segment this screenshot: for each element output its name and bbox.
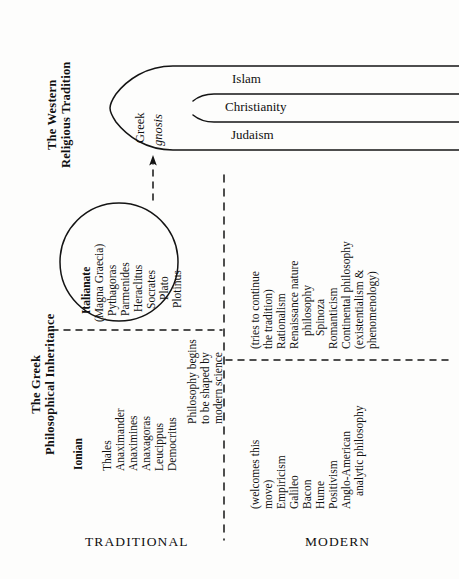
band-label-judaism: Judaism: [231, 127, 274, 143]
continuing-item: phenomenology): [366, 271, 378, 349]
italianate-figure-text: Socrates: [145, 270, 157, 309]
band-label-christianity: Christianity: [225, 99, 286, 115]
page-title-greek-inheritance: The Greek Philosophical Inheritance: [30, 314, 57, 455]
religious-title-line2: Religious Tradition: [60, 62, 74, 168]
ionian-figure: Leucippus: [153, 423, 165, 471]
welcoming-item: Galileo: [288, 475, 300, 509]
ionian-figure: Thales: [101, 440, 113, 471]
ionian-figure-text: Anaxagoras: [140, 416, 152, 471]
continuing-item-text: Continental philosophy: [340, 241, 352, 349]
ionian-figure: Anaximander: [114, 408, 126, 471]
continuing-item-text: phenomenology): [366, 271, 378, 349]
welcoming-item: Bacon: [301, 480, 313, 509]
diagram-canvas: The Western Religious Tradition Greek gn…: [0, 0, 459, 579]
welcoming-parenthetical-line1-text: (welcomes this: [249, 440, 261, 509]
welcoming-item: Empiricism: [275, 455, 287, 509]
italianate-figure: Heraclitus: [132, 265, 144, 312]
italianate-figure-text: Parmenides: [119, 262, 131, 316]
ionian-figure-text: Democritus: [166, 417, 178, 471]
continuing-parenthetical-line1-text: (tries to continue: [249, 271, 261, 349]
religious-title-line1: The Western: [45, 80, 59, 150]
welcoming-parenthetical-line2-text: move): [262, 480, 274, 509]
ionian-figure: Anaxagoras: [140, 416, 152, 471]
italianate-figure: Plotinus: [171, 270, 183, 308]
axis-label-modern-text: MODERN: [305, 534, 370, 549]
continuing-item: philosophy: [301, 285, 313, 336]
group-label-ionian: Ionian: [72, 438, 84, 470]
italianate-figure-text: Plotinus: [171, 270, 183, 308]
continuing-item: Continental philosophy: [340, 241, 352, 349]
italianate-figure-text: Pythagoras: [106, 265, 118, 316]
ionian-figure: Democritus: [166, 417, 178, 471]
ionian-figure-text: Anaximander: [114, 408, 126, 471]
stream-source-greek-label: Greek: [133, 112, 147, 143]
band-label-islam-text: Islam: [232, 71, 261, 86]
continuing-item: Spinoza: [314, 299, 326, 336]
ionian-figure-text: Thales: [101, 440, 113, 471]
continuing-item-text: Romanticism: [327, 288, 339, 349]
band-divider-christianity-judaism: [193, 115, 459, 122]
gnosis-arrow-head: [149, 155, 157, 166]
axis-label-modern: MODERN: [305, 534, 370, 550]
band-label-christianity-text: Christianity: [225, 99, 286, 114]
welcoming-item-text: Galileo: [288, 475, 300, 509]
ionian-figure: Anaximines: [127, 415, 139, 471]
ionian-figure-text: Anaximines: [127, 415, 139, 471]
axis-label-traditional: TRADITIONAL: [85, 534, 189, 550]
continuing-item: Romanticism: [327, 288, 339, 349]
transition-note-line1: Philosophy begins: [186, 339, 198, 424]
italianate-subheading: (Magna Graecia): [93, 244, 105, 322]
italianate-figure: Pythagoras: [106, 265, 118, 316]
ionian-figure-text: Leucippus: [153, 423, 165, 471]
welcoming-parenthetical-line1: (welcomes this: [249, 440, 261, 509]
greek-title-line2: Philosophical Inheritance: [44, 314, 58, 455]
welcoming-item-text: analytic philosophy: [353, 406, 365, 496]
band-label-islam: Islam: [232, 71, 261, 87]
continuing-parenthetical-line2: the tradition): [262, 289, 274, 349]
axis-label-traditional-text: TRADITIONAL: [85, 534, 189, 549]
italianate-figure-text: Heraclitus: [132, 265, 144, 312]
italianate-figure: Parmenides: [119, 262, 131, 316]
continuing-item: (existentialism &: [353, 269, 365, 349]
greek-title-line1: The Greek: [29, 355, 43, 414]
continuing-item: Renaissance nature: [288, 261, 300, 349]
italianate-subheading-text: (Magna Graecia): [93, 244, 105, 322]
band-label-judaism-text: Judaism: [231, 127, 274, 142]
italianate-figure-text: Plato: [158, 276, 170, 300]
transition-note-line2: to be shaped by: [199, 352, 211, 424]
welcoming-item-text: Bacon: [301, 480, 313, 509]
transition-note-line3-text: modern science: [212, 352, 224, 424]
transition-note-line1-text: Philosophy begins: [186, 339, 198, 424]
welcoming-item: Anglo-American: [340, 431, 352, 509]
transition-note-line3: modern science: [212, 352, 224, 424]
continuing-item-text: (existentialism &: [353, 269, 365, 349]
continuing-item-text: Renaissance nature: [288, 261, 300, 349]
stream-source-greek: Greek: [134, 112, 148, 143]
welcoming-parenthetical-line2: move): [262, 480, 274, 509]
welcoming-item: Hume: [314, 481, 326, 509]
welcoming-item-text: Positivism: [327, 460, 339, 509]
group-label-italianate-text: Italianate: [80, 267, 92, 314]
transition-note-line2-text: to be shaped by: [199, 352, 211, 424]
continuing-item: Rationalism: [275, 293, 287, 349]
welcoming-item: Positivism: [327, 460, 339, 509]
continuing-item-text: Rationalism: [275, 293, 287, 349]
italianate-figure: Plato: [158, 276, 170, 300]
group-label-italianate: Italianate: [80, 267, 92, 314]
italianate-figure: Socrates: [145, 270, 157, 309]
group-label-ionian-text: Ionian: [72, 438, 84, 470]
welcoming-item-text: Anglo-American: [340, 431, 352, 509]
continuing-item-text: Spinoza: [314, 299, 326, 336]
continuing-parenthetical-line1: (tries to continue: [249, 271, 261, 349]
stream-source-gnosis: gnosis: [152, 114, 166, 146]
continuing-parenthetical-line2-text: the tradition): [262, 289, 274, 349]
continuing-item-text: philosophy: [301, 285, 313, 336]
page-title-religious-tradition: The Western Religious Tradition: [46, 62, 73, 168]
stream-source-gnosis-label: gnosis: [151, 114, 165, 146]
welcoming-item-text: Hume: [314, 481, 326, 509]
welcoming-item-text: Empiricism: [275, 455, 287, 509]
welcoming-item: analytic philosophy: [353, 406, 365, 496]
